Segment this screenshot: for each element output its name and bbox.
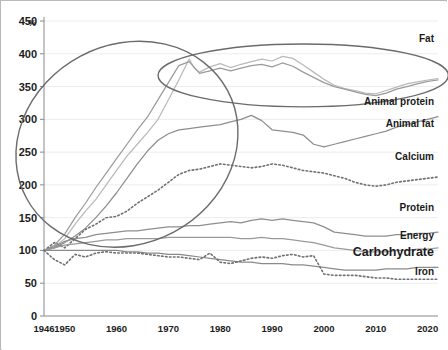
- y-tick-250: 250: [19, 146, 37, 158]
- y-tick-0: 0: [31, 310, 37, 322]
- y-tick-200: 200: [19, 179, 37, 191]
- series-label-fat: Fat: [419, 33, 435, 44]
- x-tick-1970: 1970: [158, 323, 179, 334]
- x-tick-2020: 2020: [417, 323, 438, 334]
- x-tick-2000: 2000: [313, 323, 334, 334]
- x-tick-2010: 2010: [365, 323, 386, 334]
- series-label-protein: Protein: [400, 202, 434, 213]
- x-tick-1980: 1980: [210, 323, 231, 334]
- y-tick-400: 400: [19, 48, 37, 60]
- series-label-carbohydrate: Carbohydrate: [353, 245, 434, 259]
- series-label-calcium: Calcium: [395, 151, 434, 162]
- series-label-animal-fat: Animal fat: [386, 118, 435, 129]
- series-label-iron: Iron: [415, 266, 434, 277]
- x-tick-1946: 1946: [33, 323, 54, 334]
- y-tick-350: 350: [19, 81, 37, 93]
- y-tick-50: 50: [25, 277, 37, 289]
- series-label-animal-protein: Animal protein: [364, 96, 434, 107]
- x-tick-1950: 1950: [54, 323, 75, 334]
- y-tick-100: 100: [19, 244, 37, 256]
- x-tick-1990: 1990: [262, 323, 283, 334]
- y-axis-unit-label: %: [28, 18, 36, 28]
- y-tick-150: 150: [19, 212, 37, 224]
- x-tick-1960: 1960: [106, 323, 127, 334]
- series-label-energy: Energy: [400, 230, 434, 241]
- chart-canvas: 050100150200250300350400450 194619501960…: [1, 1, 448, 350]
